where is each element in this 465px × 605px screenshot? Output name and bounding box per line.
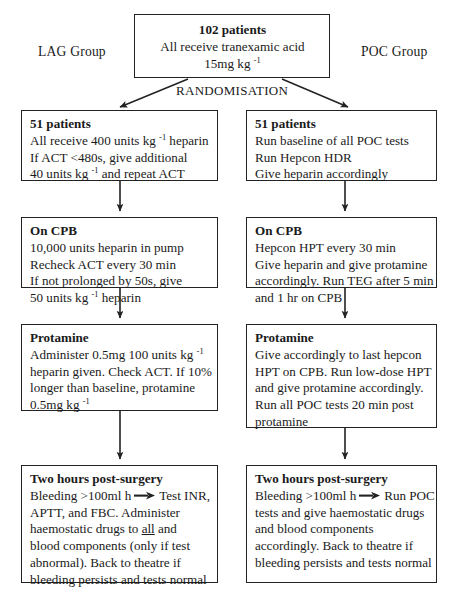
box-102-patients-header: 102 patients [143,22,322,39]
box-poc-outcome-line-0: Bleeding >100ml hRun POC [255,488,429,505]
box-poc-on-cpb-line-0: Hepcon HPT every 30 min [255,240,429,257]
box-lag-patients-line-1: If ACT <480s, give additional [30,150,210,167]
box-lag-on-cpb-line-2: If not prolonged by 50s, give [30,273,210,290]
box-lag-protamine-line-2: longer than baseline, protamine [30,380,210,397]
box-lag-patients-line-2: 40 units kg -1 and repeat ACT [30,166,210,183]
label-poc-group: POC Group [361,44,427,60]
box-lag-on-cpb-header: On CPB [30,223,210,240]
box-poc-protamine-header: Protamine [255,330,429,347]
box-poc-outcome: Two hours post-surgery Bleeding >100ml h… [246,465,437,583]
box-102-patients-line2: All receive tranexamic acid [143,39,322,56]
inline-arrow-icon [134,491,156,500]
box-102-patients-line3: 15mg kg -1 [143,56,322,73]
box-poc-on-cpb: On CPB Hepcon HPT every 30 min Give hepa… [246,217,437,288]
box-poc-patients: 51 patients Run baseline of all POC test… [246,110,437,181]
box-lag-protamine: Protamine Administer 0.5mg 100 units kg … [21,324,218,411]
box-poc-patients-header: 51 patients [255,116,429,133]
box-poc-on-cpb-header: On CPB [255,223,429,240]
box-lag-outcome-line-2: haemostatic drugs to all and [30,521,210,538]
box-poc-outcome-line-4: bleeding persists and tests normal [255,555,429,572]
box-lag-outcome-header: Two hours post-surgery [30,471,210,488]
box-poc-on-cpb-line-2: accordingly. Run TEG after 5 min [255,273,429,290]
box-poc-protamine-line-1: HPT on CPB. Run low-dose HPT [255,364,429,381]
emphasis-all: all [142,521,155,536]
box-lag-outcome: Two hours post-surgery Bleeding >100ml h… [21,465,218,583]
flowchart-canvas: 102 patients All receive tranexamic acid… [0,0,465,605]
box-poc-on-cpb-line-1: Give heparin and give protamine [255,257,429,274]
box-lag-outcome-line-5: bleeding persists and tests normal [30,572,210,589]
label-lag-group: LAG Group [38,44,106,60]
box-poc-patients-line-1: Run Hepcon HDR [255,150,429,167]
box-lag-protamine-line-0: Administer 0.5mg 100 units kg -1 [30,347,210,364]
box-poc-protamine: Protamine Give accordingly to last hepco… [246,324,437,428]
label-randomisation: RANDOMISATION [176,83,288,99]
box-poc-patients-line-0: Run baseline of all POC tests [255,133,429,150]
box-poc-on-cpb-line-3: and 1 hr on CPB [255,290,429,307]
box-lag-on-cpb-line-1: Recheck ACT every 30 min [30,257,210,274]
box-poc-outcome-line-2: and blood components [255,521,429,538]
box-poc-outcome-line-1: tests and give haemostatic drugs [255,505,429,522]
box-102-patients: 102 patients All receive tranexamic acid… [134,14,330,78]
box-lag-patients-line-0: All receive 400 units kg -1 heparin [30,133,210,150]
inline-arrow-icon [359,491,381,500]
box-poc-outcome-header: Two hours post-surgery [255,471,429,488]
box-lag-on-cpb-line-0: 10,000 units heparin in pump [30,240,210,257]
box-lag-on-cpb: On CPB 10,000 units heparin in pump Rech… [21,217,218,288]
box-poc-outcome-line-3: accordingly. Back to theatre if [255,538,429,555]
box-poc-protamine-line-3: Run all POC tests 20 min post [255,397,429,414]
box-lag-protamine-header: Protamine [30,330,210,347]
box-poc-protamine-line-0: Give accordingly to last hepcon [255,347,429,364]
box-lag-protamine-line-3: 0.5mg kg -1 [30,397,210,414]
box-poc-patients-line-2: Give heparin accordingly [255,166,429,183]
box-poc-protamine-line-4: protamine [255,414,429,431]
box-lag-patients: 51 patients All receive 400 units kg -1 … [21,110,218,181]
box-lag-outcome-line-3: blood components (only if test [30,538,210,555]
box-poc-protamine-line-2: and give protamine accordingly. [255,380,429,397]
box-lag-protamine-line-1: heparin given. Check ACT. If 10% [30,364,210,381]
box-lag-on-cpb-line-3: 50 units kg -1 heparin [30,290,210,307]
box-lag-outcome-line-1: APTT, and FBC. Administer [30,505,210,522]
box-lag-patients-header: 51 patients [30,116,210,133]
box-lag-outcome-line-0: Bleeding >100ml hTest INR, [30,488,210,505]
box-lag-outcome-line-4: abnormal). Back to theatre if [30,555,210,572]
